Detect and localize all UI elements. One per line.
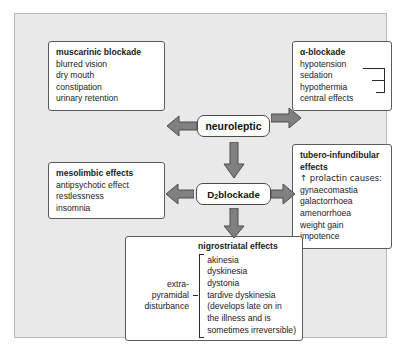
nigrostriatal-item-1: dyskinesia: [207, 266, 296, 278]
node-d2-label-post: blockade: [218, 189, 260, 200]
node-neuroleptic: neuroleptic: [197, 115, 270, 137]
tubero-prolactin-line: ↑ prolactin causes:: [300, 173, 384, 185]
arrow-neuroleptic-to-muscarinic: [167, 114, 197, 138]
node-d2-label-pre: D: [207, 189, 214, 200]
alpha-item-3: central effects: [300, 93, 384, 105]
tubero-heading-line2: effects: [300, 162, 384, 174]
arrow-d2-to-nigrostriatal: [222, 208, 246, 238]
node-d2-label-sub: 2: [214, 193, 218, 200]
arrow-d2-to-tubero: [271, 182, 295, 206]
tubero-item-3: weight gain: [300, 220, 384, 232]
tubero-item-0: gynaecomastia: [300, 185, 384, 197]
box-alpha-blockade: α-blockade hypotension sedation hypother…: [292, 41, 392, 111]
nigrostriatal-item-6: sometimes irreversible): [207, 325, 296, 337]
nigrostriatal-item-0: akinesia: [207, 255, 296, 267]
muscarinic-item-0: blurred vision: [56, 59, 157, 71]
nigrostriatal-item-4: (develops late on in: [207, 301, 296, 313]
box-mesolimbic-effects: mesolimbic effects antipsychotic effect …: [48, 162, 165, 219]
nigrostriatal-brace: [199, 254, 205, 338]
diagram-page: muscarinic blockade blurred vision dry m…: [0, 0, 401, 352]
nigrostriatal-item-5: the illness and is: [207, 313, 296, 325]
tubero-heading-line1: tubero-infundibular: [300, 150, 384, 162]
alpha-heading: α-blockade: [300, 47, 384, 59]
muscarinic-item-3: urinary retention: [56, 93, 157, 105]
node-d2-blockade: D2 blockade: [196, 183, 271, 205]
mesolimbic-item-0: antipsychotic effect: [56, 180, 157, 192]
mesolimbic-item-2: insomnia: [56, 203, 157, 215]
muscarinic-item-1: dry mouth: [56, 70, 157, 82]
box-tubero-infundibular-effects: tubero-infundibular effects ↑ prolactin …: [292, 144, 392, 249]
nigrostriatal-connector-dash: [193, 295, 198, 296]
arrow-neuroleptic-to-d2: [222, 142, 246, 178]
alpha-bracket: [363, 68, 385, 93]
diagram-panel: muscarinic blockade blurred vision dry m…: [14, 13, 387, 338]
extrapyramidal-label: extra- pyramidal disturbance: [132, 279, 193, 313]
tubero-item-4: impotence: [300, 231, 384, 243]
nigrostriatal-list: akinesia dyskinesia dystonia tardive dys…: [207, 255, 296, 337]
mesolimbic-heading: mesolimbic effects: [56, 168, 157, 180]
nigrostriatal-item-2: dystonia: [207, 278, 296, 290]
tubero-item-2: amenorrhoea: [300, 208, 384, 220]
box-muscarinic-blockade: muscarinic blockade blurred vision dry m…: [48, 41, 165, 111]
nigrostriatal-heading: nigrostriatal effects: [198, 241, 296, 253]
muscarinic-item-2: constipation: [56, 82, 157, 94]
nigrostriatal-item-3: tardive dyskinesia: [207, 290, 296, 302]
box-nigrostriatal-effects: nigrostriatal effects extra- pyramidal d…: [125, 236, 303, 341]
arrow-d2-to-mesolimbic: [166, 182, 194, 206]
extrapyramidal-line-0: extra-: [132, 279, 189, 290]
extrapyramidal-line-1: pyramidal: [132, 290, 189, 301]
arrow-neuroleptic-to-alpha: [271, 106, 301, 130]
extrapyramidal-line-2: disturbance: [132, 301, 189, 312]
tubero-item-1: galactorrhoea: [300, 196, 384, 208]
muscarinic-heading: muscarinic blockade: [56, 47, 157, 59]
node-neuroleptic-label: neuroleptic: [205, 121, 261, 132]
mesolimbic-item-1: restlessness: [56, 191, 157, 203]
